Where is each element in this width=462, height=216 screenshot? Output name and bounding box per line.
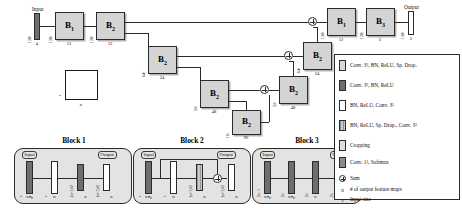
encoder-block-b2-l1-label: B2 <box>106 21 115 32</box>
block1-output-tag: Output <box>98 151 117 159</box>
edge-b1-b2 <box>84 26 96 27</box>
up-edge-dec3-v <box>293 61 294 76</box>
decoder-block-b1-label: B1 <box>337 17 346 28</box>
decoder-block-b1: B1 <box>327 8 356 36</box>
skip-connection-level3 <box>229 90 260 91</box>
up-edge-dec2-h <box>313 27 317 28</box>
edge-input-b1 <box>40 26 55 27</box>
decoder-b2-l2-maps: 24 <box>310 72 324 77</box>
block2-skip-left-v <box>160 159 161 178</box>
legend-label-5: Conv. 1³, Softmax <box>350 160 389 165</box>
block1-bar-4 <box>103 164 110 191</box>
legend-swatch-conv3-bn-relu-spdrop-icon <box>339 60 346 71</box>
legend-swatch-cropping-icon <box>339 140 346 151</box>
block1-input-tag: Input <box>22 151 37 159</box>
block2-bar-4-maps: n <box>230 195 243 200</box>
output-label: Output <box>404 5 419 10</box>
block2-bar-2 <box>170 161 177 194</box>
edge-sum1-dec1 <box>317 22 327 23</box>
edge-sum3-dec3 <box>269 90 279 91</box>
block1-bar-2-maps: n <box>48 195 61 200</box>
decoder-b3-size: 128³ <box>360 32 364 40</box>
input-bar-maps: 4 <box>30 42 44 47</box>
legend-item-2: BN, ReLU, Conv. 3³ <box>339 100 394 111</box>
input-label: Input <box>32 7 43 12</box>
encoder-b2-l3-maps: 48 <box>207 110 221 115</box>
legend-panel: Conv. 3³, BN, ReLU, Sp. Drop. Conv. 3³, … <box>334 54 460 200</box>
legend-label-0: Conv. 3³, BN, ReLU, Sp. Drop. <box>350 63 417 68</box>
legend-label-2: BN, ReLU, Conv. 3³ <box>350 103 394 108</box>
block1-bar-4-maps: n <box>105 195 118 200</box>
encoder-b1-maps: 12 <box>62 42 76 47</box>
block3-bar-1 <box>264 161 271 194</box>
encoder-b1-size: 128³ <box>49 36 53 44</box>
legend-item-5: Conv. 1³, Softmax <box>339 157 389 168</box>
sum-node-level2 <box>284 51 293 60</box>
encoder-block-b2-l3: B2 <box>200 80 229 108</box>
legend-symbol-s-glyph: s <box>339 197 346 203</box>
sum-node-level3 <box>260 85 269 94</box>
encoder-b2-l2-maps: 24 <box>155 76 169 81</box>
block1-flow-line <box>28 178 108 179</box>
legend-item-4: Cropping <box>339 140 370 151</box>
legend-swatch-conv3-bn-relu-icon <box>339 80 346 91</box>
legend-label-3: BN, ReLU, Sp. Drop., Conv. 3³ <box>350 123 417 128</box>
sum-node-level1 <box>308 17 317 26</box>
encoder-block-b2-l2: B2 <box>148 46 177 74</box>
output-bar-maps: 2 <box>404 37 418 42</box>
output-bar <box>408 11 414 35</box>
block2-skip-right-v <box>217 159 218 174</box>
block1-bar-4-size: (s+1)/2 <box>96 185 100 197</box>
decoder-b2-l3-maps: 48 <box>286 106 300 111</box>
block2-bar-3-size: (s+1)/2 <box>189 185 193 197</box>
legend-swatch-conv1-softmax-icon <box>339 157 346 168</box>
decoder-block-b3: B3 <box>366 8 395 36</box>
skip-connection-level1 <box>125 22 313 23</box>
sum-icon <box>339 175 346 182</box>
legend-label-sum: Sum <box>350 176 360 181</box>
decoder-block-b2-l2-label: B2 <box>313 51 322 62</box>
legend-symbol-n-text: # of output feature maps <box>350 187 402 192</box>
block2-bar-4 <box>228 164 235 191</box>
block3-bar-3-maps: n <box>309 195 322 200</box>
legend-symbol-n-glyph: n <box>339 187 346 193</box>
block1-bar-3 <box>77 164 84 191</box>
legend-item-0: Conv. 3³, BN, ReLU, Sp. Drop. <box>339 60 417 71</box>
block2-title: Block 2 <box>139 137 245 144</box>
block2-sum-node <box>213 174 222 183</box>
decoder-block-b2-l3-label: B2 <box>289 85 298 96</box>
edge-dec1-b3 <box>356 22 366 23</box>
down-edge-l3 <box>229 101 246 102</box>
block2-bar-3 <box>196 164 203 191</box>
down-edge-l1 <box>125 33 148 34</box>
edge-b3-output <box>395 22 408 23</box>
block1-bar-3-maps: n <box>79 195 92 200</box>
encoder-block-b2-l3-label: B2 <box>210 89 219 100</box>
encoder-block-b1-label: B1 <box>65 21 74 32</box>
block1-bar-1 <box>26 161 33 194</box>
scale-box-size-label: s <box>58 95 62 97</box>
legend-item-1: Conv. 3³, BN, ReLU <box>339 80 394 91</box>
up-edge-dec2-v <box>317 27 318 42</box>
block1-bar-1-maps: nₙₚ <box>22 195 37 200</box>
decoder-b2-l2-size: 64³ <box>297 68 301 73</box>
legend-symbol-s-text: Input size <box>350 197 371 202</box>
bottleneck-block-b2: B2 <box>232 110 261 135</box>
scale-box-maps-label: n <box>74 103 88 108</box>
legend-swatch-bn-relu-spdrop-conv3-icon <box>339 120 346 131</box>
scale-reference-box <box>65 70 98 100</box>
encoder-block-b2-l1: B2 <box>96 12 125 40</box>
block3-bar-3 <box>312 161 319 194</box>
block2-skip-h <box>160 159 217 160</box>
decoder-block-b2-l3: B2 <box>279 76 308 104</box>
up-edge-bottleneck <box>261 122 269 123</box>
architecture-diagram: Input 128³ 4 B1 128³ 12 B2 128³ 12 B2 64… <box>0 0 462 216</box>
down-edge-l2 <box>177 67 200 68</box>
encoder-b2-l1-size: 128³ <box>90 36 94 44</box>
legend-item-3: BN, ReLU, Sp. Drop., Conv. 3³ <box>339 120 417 131</box>
block3-bar-1-maps: nₙₚ <box>260 195 275 200</box>
block3-flow-line <box>266 178 340 179</box>
block2-bar-1 <box>145 161 152 194</box>
encoder-block-b2-l2-label: B2 <box>158 55 167 66</box>
block2-output-tag: Output <box>217 151 236 159</box>
